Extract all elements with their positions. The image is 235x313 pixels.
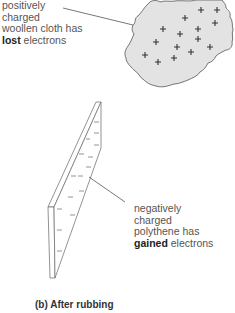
strip-label-rest: electrons — [168, 237, 214, 249]
polythene-strip — [48, 102, 101, 278]
diagram-canvas — [0, 0, 235, 313]
strip-label-line1: negatively — [134, 203, 213, 215]
cloth-label-bold: lost — [2, 34, 21, 46]
strip-leader-line — [89, 177, 125, 202]
figure-caption: (b) After rubbing — [35, 299, 114, 310]
cloth-label: positively charged woollen cloth has los… — [2, 0, 83, 46]
strip-label-bold: gained — [134, 237, 168, 249]
cloth-label-rest: electrons — [21, 34, 67, 46]
cloth-label-line1: positively — [2, 0, 83, 12]
strip-label: negatively charged polythene has gained … — [134, 203, 213, 249]
woollen-cloth — [125, 0, 233, 87]
